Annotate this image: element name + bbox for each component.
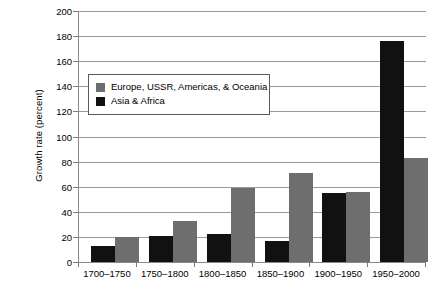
bar-group <box>146 11 194 262</box>
x-axis-tick-mark <box>309 262 310 267</box>
chart-legend: Europe, USSR, Americas, & Oceania Asia &… <box>88 74 270 115</box>
x-axis-tick-mark <box>194 262 195 267</box>
legend-item-asia: Asia & Africa <box>96 94 262 108</box>
x-axis-tick-label: 1950–2000 <box>356 268 436 279</box>
y-axis-tick-label: 140 <box>2 81 72 92</box>
bar-europe-ussr-americas-oceania <box>231 188 255 262</box>
bars-layer <box>78 11 425 262</box>
bar-asia-africa <box>265 241 289 262</box>
bar-asia-africa <box>380 41 404 262</box>
bar-asia-africa <box>91 246 115 262</box>
legend-label-europe: Europe, USSR, Americas, & Oceania <box>111 82 267 92</box>
x-axis-tick-mark <box>136 262 137 267</box>
x-axis-tick-mark <box>78 262 79 267</box>
y-axis-tick-label: 20 <box>2 231 72 242</box>
y-axis-tick-label: 200 <box>2 6 72 17</box>
y-axis-tick-label: 80 <box>2 156 72 167</box>
bar-group <box>319 11 367 262</box>
legend-item-europe: Europe, USSR, Americas, & Oceania <box>96 80 262 94</box>
bar-europe-ussr-americas-oceania <box>346 192 370 262</box>
y-axis-tick-label: 60 <box>2 181 72 192</box>
x-axis-tick-mark <box>252 262 253 267</box>
bar-group <box>262 11 310 262</box>
x-axis-tick-mark <box>367 262 368 267</box>
bar-europe-ussr-americas-oceania <box>115 237 139 262</box>
legend-swatch-asia-icon <box>96 97 105 106</box>
x-axis-tick-mark <box>425 262 426 267</box>
bar-asia-africa <box>322 193 346 262</box>
bar-asia-africa <box>207 234 231 262</box>
x-axis-tick-labels: 1700–17501750–18001800–18501850–19001900… <box>78 268 425 284</box>
bar-group <box>88 11 136 262</box>
legend-label-asia: Asia & Africa <box>111 96 165 106</box>
y-axis-tick-label: 120 <box>2 106 72 117</box>
bar-europe-ussr-americas-oceania <box>404 158 428 262</box>
y-axis-tick-label: 100 <box>2 131 72 142</box>
bar-asia-africa <box>149 236 173 262</box>
bar-group <box>204 11 252 262</box>
y-axis-tick-label: 160 <box>2 56 72 67</box>
legend-swatch-europe-icon <box>96 83 105 92</box>
bar-group <box>377 11 425 262</box>
bar-chart: Growth rate (percent) 020406080100120140… <box>0 0 438 294</box>
y-axis-tick-label: 180 <box>2 31 72 42</box>
y-axis-tick-label: 40 <box>2 206 72 217</box>
y-axis-tick-labels: 020406080100120140160180200 <box>0 11 72 262</box>
y-axis-tick-label: 0 <box>2 257 72 268</box>
bar-europe-ussr-americas-oceania <box>173 221 197 262</box>
bar-europe-ussr-americas-oceania <box>289 173 313 262</box>
